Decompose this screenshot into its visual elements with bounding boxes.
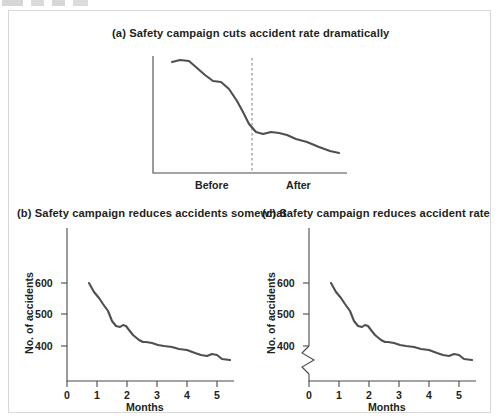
panel-c-xtick-4: 4 [426, 389, 432, 401]
panel-a-data-line [172, 60, 339, 153]
panel-a-plot [9, 11, 492, 196]
panel-c-xtick-5: 5 [456, 389, 462, 401]
panel-c-xlabel: Months [368, 401, 406, 413]
figure-frame: (a) Safety campaign cuts accident rate d… [8, 10, 491, 413]
panel-b-xtick-1: 1 [94, 389, 100, 401]
panel-c-axes-lower [309, 374, 476, 381]
panel-b: (b) Safety campaign reduces accidents so… [9, 196, 254, 414]
panel-a: (a) Safety campaign cuts accident rate d… [9, 11, 492, 196]
panel-c-xtick-0: 0 [306, 389, 312, 401]
panel-b-xlabel: Months [126, 401, 164, 413]
panel-c-xtick-1: 1 [336, 389, 342, 401]
panel-b-xtick-3: 3 [154, 389, 160, 401]
panel-b-axes [67, 228, 234, 381]
panel-c-plot [254, 196, 492, 414]
panel-c: (c) Safety campaign reduces accident rat… [254, 196, 492, 414]
panel-b-data-line [89, 283, 230, 360]
panel-b-xtick-0: 0 [64, 389, 70, 401]
panel-a-axes [153, 56, 347, 173]
panel-c-xtick-3: 3 [396, 389, 402, 401]
top-cropped-text-fragment [2, 0, 98, 6]
panel-c-xtick-2: 2 [366, 389, 372, 401]
panel-b-xtick-2: 2 [124, 389, 130, 401]
panel-c-axis-break-zigzag [302, 346, 314, 374]
panel-b-plot [9, 196, 254, 414]
panel-c-data-line [331, 283, 472, 360]
panel-b-xtick-5: 5 [214, 389, 220, 401]
panel-a-label-after: After [286, 179, 311, 191]
panel-a-label-before: Before [195, 179, 229, 191]
panel-b-xtick-4: 4 [184, 389, 190, 401]
